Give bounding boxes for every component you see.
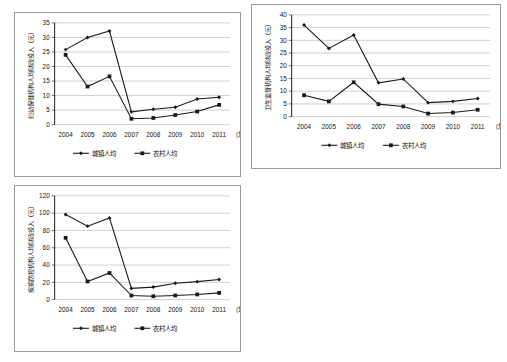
data-point-urban (151, 107, 155, 111)
data-point-urban (451, 99, 455, 103)
chart-disease-control: 020406080100120疾病防控机构人均财政投入（元）2004200520… (15, 186, 240, 351)
x-axis-unit-label: （年） (492, 122, 500, 131)
x-tick-label: 2005 (80, 131, 95, 138)
legend-label-rural: 农村人均 (402, 141, 426, 150)
data-point-urban (217, 278, 221, 282)
data-point-rural (195, 110, 199, 114)
legend-marker-rural (140, 326, 144, 330)
x-tick-label: 2011 (471, 123, 485, 130)
y-tick-label: 0 (46, 296, 50, 303)
data-point-rural (130, 117, 134, 121)
data-point-urban (195, 97, 199, 101)
x-tick-label: 2008 (146, 131, 161, 138)
chart-health-supervision: 0510152025303540卫生监督机构人均财政投入（元）200420052… (252, 5, 500, 168)
y-tick-label: 35 (43, 19, 51, 26)
x-tick-label: 2008 (146, 306, 161, 313)
y-tick-label: 40 (43, 261, 51, 268)
x-tick-label: 2004 (59, 306, 74, 313)
data-point-rural (173, 294, 177, 298)
y-tick-label: 60 (43, 244, 51, 251)
x-tick-label: 2008 (396, 123, 411, 130)
data-point-rural (64, 236, 68, 240)
y-axis-title: 妇幼保健机构人均财政投入（元） (27, 29, 35, 119)
data-point-urban (86, 224, 90, 228)
y-tick-label: 10 (280, 87, 288, 94)
y-tick-label: 20 (43, 63, 51, 70)
legend-label-rural: 农村人均 (153, 149, 177, 158)
data-point-rural (130, 294, 134, 298)
legend-marker-urban (79, 151, 83, 155)
y-tick-label: 0 (46, 121, 50, 128)
x-tick-label: 2007 (124, 306, 139, 313)
x-tick-label: 2009 (421, 123, 436, 130)
y-tick-label: 100 (39, 209, 50, 216)
data-point-urban (217, 95, 221, 99)
x-tick-label: 2007 (124, 131, 139, 138)
y-tick-label: 80 (43, 227, 51, 234)
y-tick-label: 0 (283, 113, 287, 120)
legend-marker-urban (327, 143, 331, 147)
legend-label-rural: 农村人均 (153, 324, 177, 333)
data-point-rural (86, 280, 90, 284)
data-point-rural (217, 291, 221, 295)
data-point-rural (173, 113, 177, 117)
data-point-rural (217, 103, 221, 107)
data-point-rural (476, 108, 480, 112)
data-point-rural (64, 53, 68, 57)
legend-marker-rural (389, 143, 393, 147)
x-tick-label: 2009 (168, 306, 183, 313)
data-point-rural (377, 102, 381, 106)
data-point-urban (173, 281, 177, 285)
y-tick-label: 15 (43, 77, 51, 84)
x-tick-label: 2011 (212, 131, 226, 138)
x-axis-unit-label: （年） (232, 305, 240, 314)
chart-panel-2-frame: 0510152025303540卫生监督机构人均财政投入（元）200420052… (251, 4, 501, 169)
chart-panel-2: 0510152025303540卫生监督机构人均财政投入（元）200420052… (247, 0, 507, 181)
data-point-urban (376, 81, 380, 85)
y-tick-label: 30 (43, 34, 51, 41)
data-point-rural (352, 80, 356, 84)
y-axis-title: 卫生监督机构人均财政投入（元） (264, 21, 272, 111)
chart-panel-1: 05101520253035妇幼保健机构人均财政投入（元）20042005200… (0, 0, 247, 181)
chart-maternal-child-health: 05101520253035妇幼保健机构人均财政投入（元）20042005200… (15, 13, 240, 176)
series-line-rural (304, 82, 478, 113)
x-tick-label: 2005 (80, 306, 95, 313)
data-point-urban (107, 216, 111, 220)
data-point-rural (327, 99, 331, 103)
y-axis-title: 疾病防控机构人均财政投入（元） (27, 203, 35, 293)
legend-marker-urban (79, 326, 83, 330)
y-tick-label: 15 (280, 75, 288, 82)
data-point-urban (352, 33, 356, 37)
x-tick-label: 2004 (59, 131, 74, 138)
y-tick-label: 25 (280, 49, 288, 56)
x-tick-label: 2011 (212, 306, 226, 313)
x-tick-label: 2006 (347, 123, 362, 130)
x-tick-label: 2010 (446, 123, 461, 130)
data-point-urban (129, 110, 133, 114)
x-tick-label: 2010 (190, 306, 205, 313)
x-tick-label: 2006 (102, 131, 117, 138)
legend-marker-rural (140, 151, 144, 155)
x-tick-label: 2009 (168, 131, 183, 138)
x-tick-label: 2005 (322, 123, 337, 130)
y-tick-label: 20 (43, 279, 51, 286)
data-point-rural (86, 85, 90, 89)
x-axis-unit-label: （年） (232, 130, 240, 139)
figure-grid: 05101520253035妇幼保健机构人均财政投入（元）20042005200… (0, 0, 507, 362)
y-tick-label: 30 (280, 37, 288, 44)
data-point-urban (476, 97, 480, 101)
data-point-urban (173, 105, 177, 109)
y-tick-label: 35 (280, 24, 288, 31)
legend-label-urban: 城镇人均 (340, 141, 364, 150)
legend-label-urban: 城镇人均 (92, 324, 116, 333)
data-point-rural (108, 271, 112, 275)
data-point-rural (151, 116, 155, 120)
y-tick-label: 40 (280, 11, 288, 18)
x-tick-label: 2006 (102, 306, 117, 313)
data-point-rural (195, 293, 199, 297)
chart-panel-3: 020406080100120疾病防控机构人均财政投入（元）2004200520… (0, 181, 247, 362)
y-tick-label: 5 (283, 100, 287, 107)
data-point-rural (108, 74, 112, 78)
legend-label-urban: 城镇人均 (92, 149, 116, 158)
data-point-rural (401, 105, 405, 109)
